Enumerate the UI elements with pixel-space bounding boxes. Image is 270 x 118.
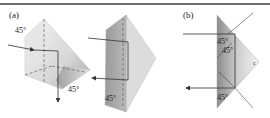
corner-mark: c [253,60,256,66]
angle-label-3: 45° [105,94,116,103]
angle-label-b2: 45° [222,46,233,55]
angle-label-2: 45° [68,85,79,94]
optics-diagram: (a) 45° 45° 45° (b) [0,0,270,118]
panel-b-label: (b) [183,10,194,20]
prism-1 [25,19,90,89]
angle-label-b3: 45° [217,93,228,102]
angle-label-b1: 45° [217,37,228,46]
panel-b: (b) c 45° 45° 45° [183,10,259,108]
panel-a-label: (a) [9,10,19,20]
panel-a: (a) 45° 45° 45° [8,10,156,112]
angle-label-1: 45° [15,26,26,35]
